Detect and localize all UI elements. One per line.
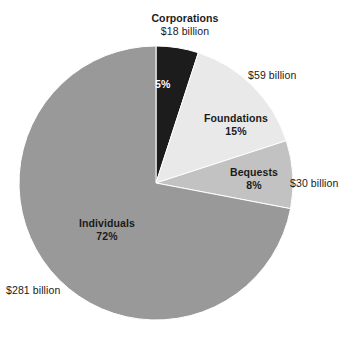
slice-label-corporations-value: $18 billion [130, 25, 240, 38]
slice-value-bequests: $30 billion [290, 177, 338, 190]
slice-label-individuals: Individuals 72% [58, 217, 156, 244]
slice-label-corporations: Corporations $18 billion [130, 12, 240, 39]
slice-label-foundations-name: Foundations [190, 112, 282, 125]
pie-chart: Corporations $18 billion 5% $59 billion … [0, 0, 360, 340]
slice-value-bequests-text: $30 billion [290, 177, 338, 190]
slice-label-bequests: Bequests 8% [222, 166, 286, 193]
slice-value-individuals-text: $281 billion [6, 284, 60, 297]
slice-percent-individuals-text: 72% [58, 230, 156, 243]
slice-value-foundations-text: $59 billion [248, 69, 296, 82]
slice-label-corporations-name: Corporations [130, 12, 240, 25]
slice-label-individuals-name: Individuals [58, 217, 156, 230]
slice-value-individuals: $281 billion [6, 284, 60, 297]
slice-percent-corporations: 5% [155, 78, 185, 91]
slice-value-foundations: $59 billion [248, 69, 296, 82]
slice-percent-corporations-text: 5% [155, 78, 185, 91]
slice-percent-foundations-text: 15% [190, 125, 282, 138]
slice-label-bequests-name: Bequests [222, 166, 286, 179]
slice-label-foundations: Foundations 15% [190, 112, 282, 139]
slice-percent-bequests-text: 8% [222, 179, 286, 192]
